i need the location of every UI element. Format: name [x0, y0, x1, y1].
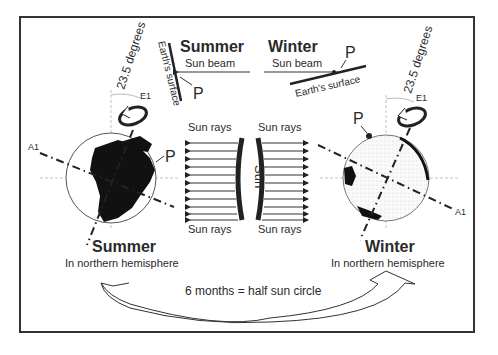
winter-globe: P E1 A1 23.5 degrees Winter In northern … [318, 24, 466, 269]
winter-inset-title: Winter [268, 38, 318, 55]
summer-globe: P E1 A1 23.5 degrees Summer In northern … [28, 20, 180, 269]
summer-tilt-label: 23.5 degrees [114, 20, 149, 91]
half-cycle-arrow: 6 months = half sun circle [101, 271, 415, 323]
sun-left-edge [238, 138, 242, 220]
summer-a1-label: A1 [28, 142, 39, 152]
p-leader [180, 77, 192, 85]
winter-globe-p-label: P [353, 110, 364, 127]
cycle-label: 6 months = half sun circle [185, 284, 322, 298]
sun-rays-label-right-top: Sun rays [258, 121, 302, 133]
winter-season-label: Winter [365, 238, 415, 255]
summer-beam-inset: Summer Sun beam P Earth's surface [156, 38, 250, 107]
sun-rays-left [190, 143, 238, 220]
sun-label: Sun [252, 165, 267, 188]
sun-rays-label-left-top: Sun rays [188, 121, 232, 133]
summer-season-sub: In northern hemisphere [65, 257, 179, 269]
winter-a1-label: A1 [455, 207, 466, 217]
summer-beam-label: Sun beam [185, 57, 235, 69]
winter-p-label: P [345, 44, 356, 61]
summer-season-label: Summer [92, 238, 156, 255]
sun-rays-label-right-bottom: Sun rays [258, 223, 302, 235]
winter-e1-label: E1 [416, 93, 427, 103]
sun-rays-right [262, 143, 308, 220]
summer-e1-label: E1 [140, 91, 151, 101]
summer-p-label: P [193, 85, 204, 102]
winter-season-sub: In northern hemisphere [331, 257, 445, 269]
winter-surface-label: Earth's surface [294, 73, 362, 99]
winter-beam-label: Sun beam [272, 57, 322, 69]
seasons-diagram: Summer Sun beam P Earth's surface Winter… [0, 0, 498, 355]
winter-beam-inset: Winter Sun beam P Earth's surface [264, 38, 366, 99]
winter-tilt-label: 23.5 degrees [401, 24, 436, 95]
rotation-arrow-icon [117, 104, 149, 129]
summer-surface-label: Earth's surface [156, 40, 183, 107]
summer-globe-p-label: P [165, 148, 176, 165]
sun-rays-label-left-bottom: Sun rays [188, 223, 232, 235]
p-leader [341, 60, 346, 68]
sun-group: Sun Sun rays Sun [188, 121, 308, 235]
summer-inset-title: Summer [180, 38, 244, 55]
